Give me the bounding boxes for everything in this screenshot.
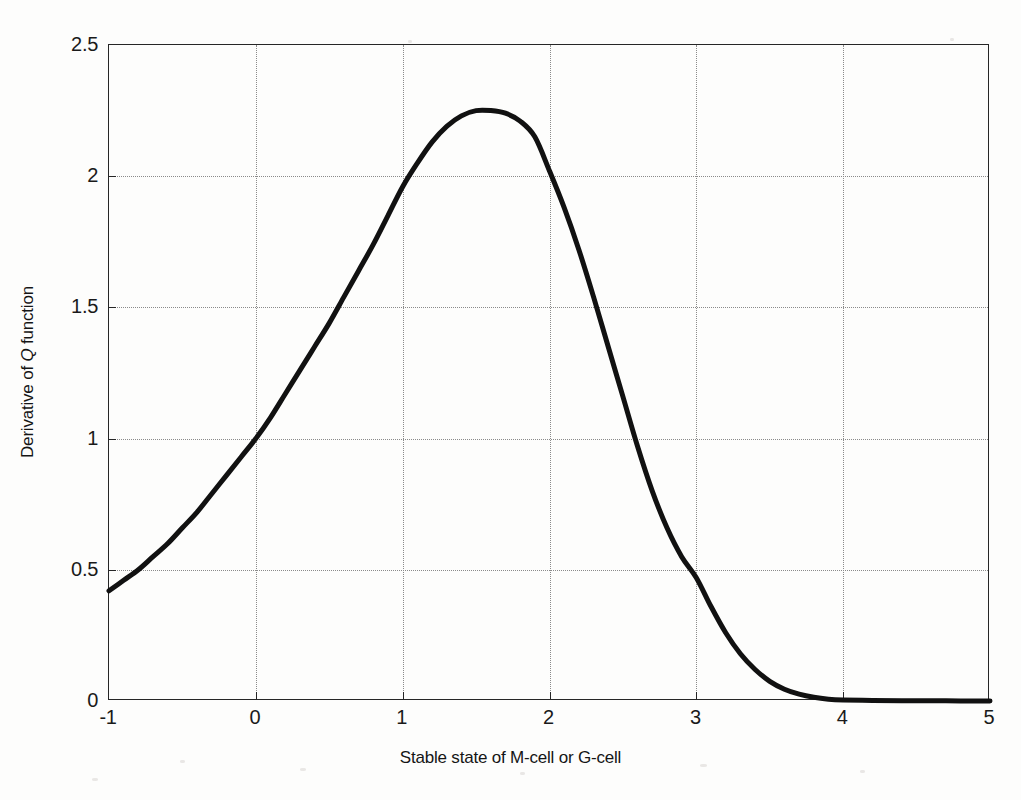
xtick-label--1: -1 — [99, 706, 116, 729]
xtick-label-3: 3 — [690, 706, 701, 729]
xtick-label-1: 1 — [396, 706, 407, 729]
scan-speck — [860, 770, 865, 773]
y-axis-label-before: Derivative of — [18, 362, 37, 458]
xtick-label-4: 4 — [837, 706, 848, 729]
scan-speck — [300, 768, 306, 771]
ytick-label-1.5: 1.5 — [71, 295, 98, 318]
ytick-label-2: 2 — [87, 164, 98, 187]
ytick-label-2.5: 2.5 — [71, 33, 98, 56]
ytick-label-1: 1 — [87, 426, 98, 449]
x-axis-label: Stable state of M-cell or G-cell — [0, 748, 1021, 768]
xtick-label-5: 5 — [984, 706, 995, 729]
ytick-label-0.5: 0.5 — [71, 557, 98, 580]
data-curve — [109, 45, 990, 701]
figure-canvas: -1 0 1 2 3 4 5 0 0.5 1 1.5 2 2.5 Stable … — [0, 0, 1021, 800]
scan-speck — [92, 778, 98, 781]
xtick-label-0: 0 — [249, 706, 260, 729]
scan-speck — [950, 38, 954, 41]
xtick-label-2: 2 — [543, 706, 554, 729]
scan-speck — [408, 40, 412, 43]
scan-speck — [520, 772, 525, 775]
y-axis-label-after: function — [18, 286, 37, 348]
plot-area — [108, 44, 989, 700]
y-axis-label: Derivative of Q function — [18, 286, 38, 458]
y-axis-label-italic: Q — [18, 349, 37, 362]
ytick-label-0: 0 — [87, 689, 98, 712]
